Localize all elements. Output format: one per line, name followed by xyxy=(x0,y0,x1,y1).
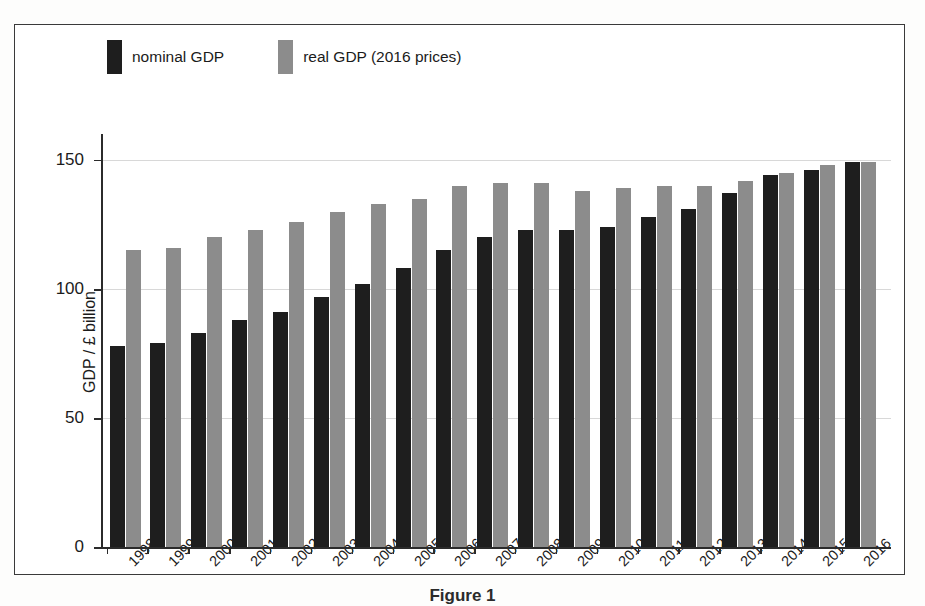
bar-real xyxy=(738,181,753,548)
figure-caption: Figure 1 xyxy=(0,586,925,606)
bar-real xyxy=(452,186,467,548)
bar-group: 1998 xyxy=(107,134,148,547)
bar-nominal xyxy=(355,284,370,548)
x-axis-line xyxy=(101,547,891,549)
legend-label-nominal: nominal GDP xyxy=(132,48,224,66)
bar-real xyxy=(330,212,345,548)
bar-real xyxy=(616,188,631,547)
bar-group: 1999 xyxy=(147,134,188,547)
bar-group: 2008 xyxy=(515,134,556,547)
bar-nominal xyxy=(641,217,656,548)
bar-nominal xyxy=(681,209,696,547)
bar-nominal xyxy=(722,193,737,547)
bar-group: 2015 xyxy=(801,134,842,547)
bar-nominal xyxy=(559,230,574,548)
bar-nominal xyxy=(396,268,411,547)
bar-series-container: 1998199920002001200220032004200520062007… xyxy=(103,134,891,547)
bar-real xyxy=(657,186,672,548)
bar-real xyxy=(534,183,549,547)
bar-real xyxy=(493,183,508,547)
bar-nominal xyxy=(273,312,288,547)
y-axis-title: GDP / £ billion xyxy=(81,291,99,393)
bar-nominal xyxy=(436,250,451,547)
bar-nominal xyxy=(150,343,165,547)
bar-group: 2011 xyxy=(638,134,679,547)
legend-swatch-real xyxy=(278,40,293,74)
bar-group: 2007 xyxy=(474,134,515,547)
y-axis-tick-label: 50 xyxy=(65,408,84,428)
bar-nominal xyxy=(314,297,329,548)
bar-nominal xyxy=(600,227,615,547)
legend-entry-real: real GDP (2016 prices) xyxy=(278,40,461,74)
bar-nominal xyxy=(845,162,860,547)
bar-real xyxy=(820,165,835,547)
plot-area: GDP / £ billion 050100150 19981999200020… xyxy=(101,134,891,549)
bar-group: 2006 xyxy=(433,134,474,547)
bar-real xyxy=(289,222,304,548)
bar-group: 2002 xyxy=(270,134,311,547)
bar-nominal xyxy=(763,175,778,547)
bar-nominal xyxy=(518,230,533,548)
bar-nominal xyxy=(191,333,206,547)
bar-real xyxy=(371,204,386,548)
bar-group: 2014 xyxy=(760,134,801,547)
legend-entry-nominal: nominal GDP xyxy=(107,40,224,74)
bar-nominal xyxy=(232,320,247,547)
bar-real xyxy=(166,248,181,548)
bar-group: 2001 xyxy=(229,134,270,547)
y-axis-tick-label: 0 xyxy=(75,537,84,557)
legend-label-real: real GDP (2016 prices) xyxy=(303,48,461,66)
figure-frame: nominal GDP real GDP (2016 prices) GDP /… xyxy=(14,24,905,575)
bar-real xyxy=(861,162,876,547)
bar-group: 2012 xyxy=(678,134,719,547)
y-axis-tick-label: 150 xyxy=(56,150,84,170)
bar-group: 2005 xyxy=(393,134,434,547)
bar-group: 2016 xyxy=(842,134,883,547)
bar-real xyxy=(207,237,222,547)
bar-real xyxy=(412,199,427,548)
bar-real xyxy=(575,191,590,548)
bar-nominal xyxy=(804,170,819,547)
bar-real xyxy=(697,186,712,548)
bar-nominal xyxy=(110,346,125,548)
bar-group: 2000 xyxy=(188,134,229,547)
y-axis-tick-label: 100 xyxy=(56,279,84,299)
bar-group: 2010 xyxy=(597,134,638,547)
bar-real xyxy=(126,250,141,547)
bar-group: 2003 xyxy=(311,134,352,547)
bar-group: 2009 xyxy=(556,134,597,547)
bar-real xyxy=(779,173,794,548)
bar-group: 2004 xyxy=(352,134,393,547)
chart-legend: nominal GDP real GDP (2016 prices) xyxy=(107,40,461,74)
bar-group: 2013 xyxy=(719,134,760,547)
bar-real xyxy=(248,230,263,548)
legend-swatch-nominal xyxy=(107,40,122,74)
bar-nominal xyxy=(477,237,492,547)
